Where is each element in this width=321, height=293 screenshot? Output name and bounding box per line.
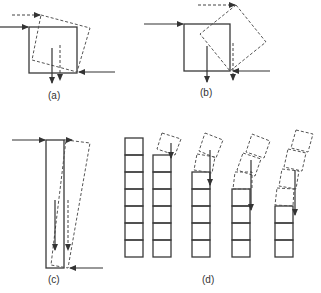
stack-4 (232, 134, 270, 257)
panel-label-d: (d) (202, 274, 214, 285)
figure-canvas (0, 0, 321, 293)
panel-d (125, 130, 313, 257)
stack-1 (125, 138, 143, 257)
block-rotated (32, 15, 90, 72)
column-tilted (51, 140, 90, 268)
panel-label-a: (a) (48, 90, 60, 101)
stack-2 (153, 133, 181, 257)
panel-label-c: (c) (48, 274, 60, 285)
panel-a (0, 15, 115, 83)
panel-b (144, 5, 270, 82)
panel-c (12, 140, 103, 268)
stack-5 (275, 130, 313, 257)
block-rotated (200, 5, 266, 71)
panel-label-b: (b) (200, 87, 212, 98)
stack-3 (192, 133, 223, 257)
